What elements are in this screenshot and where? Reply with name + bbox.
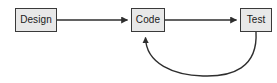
diagram-canvas: Design Code Test <box>0 0 277 83</box>
node-test-label: Test <box>247 15 266 25</box>
connector-test-to-code-feedback <box>146 32 257 76</box>
node-code-label: Code <box>136 15 160 25</box>
node-design[interactable]: Design <box>15 8 57 32</box>
node-design-label: Design <box>20 15 52 25</box>
node-code[interactable]: Code <box>131 8 165 32</box>
node-test[interactable]: Test <box>240 8 272 32</box>
